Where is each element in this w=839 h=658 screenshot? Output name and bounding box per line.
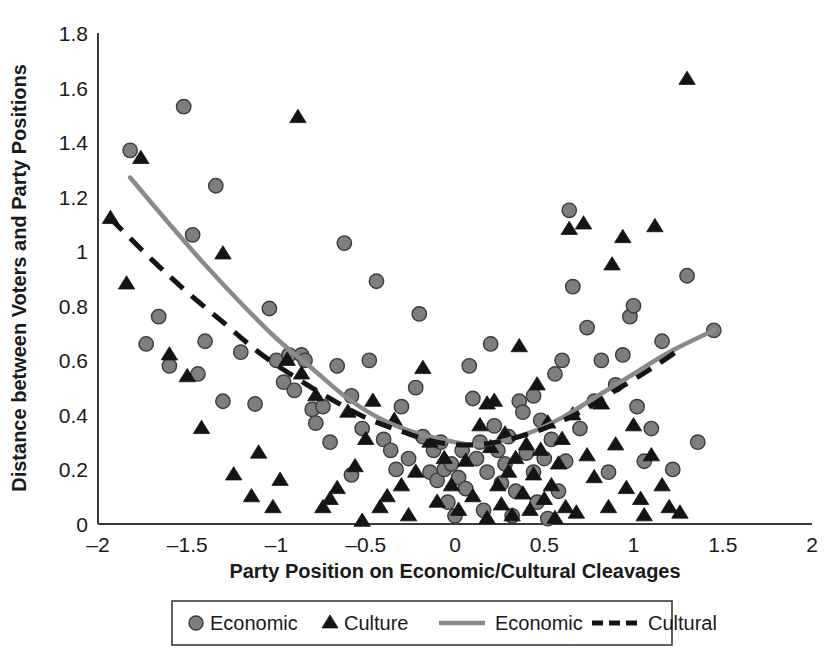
x-tick-label: 1.5 bbox=[708, 533, 737, 556]
data-point-culture bbox=[393, 478, 409, 491]
data-point-culture bbox=[472, 418, 488, 431]
data-point-culture bbox=[600, 499, 616, 512]
data-point-economic bbox=[580, 320, 594, 334]
x-tick-label: 2 bbox=[806, 533, 818, 556]
data-point-culture bbox=[265, 499, 281, 512]
data-point-culture bbox=[604, 257, 620, 270]
x-axis-title: Party Position on Economic/Cultural Clea… bbox=[229, 560, 680, 582]
data-point-culture bbox=[329, 480, 345, 493]
data-point-economic bbox=[526, 389, 540, 403]
series-economic-points bbox=[123, 99, 721, 525]
legend: EconomicCultureEconomicCultural bbox=[189, 612, 717, 634]
legend-marker-circle bbox=[189, 616, 203, 630]
data-point-economic bbox=[462, 359, 476, 373]
y-axis-title: Distance between Voters and Party Positi… bbox=[8, 64, 30, 492]
data-point-culture bbox=[618, 480, 634, 493]
y-axis-tick-labels: 00.20.40.60.811.21.41.61.8 bbox=[59, 22, 89, 536]
data-point-economic bbox=[562, 203, 576, 217]
data-point-economic bbox=[162, 359, 176, 373]
data-point-culture bbox=[215, 246, 231, 259]
x-tick-label: –1.5 bbox=[167, 533, 208, 556]
data-point-economic bbox=[151, 309, 165, 323]
data-point-culture bbox=[161, 347, 177, 360]
data-point-culture bbox=[250, 445, 266, 458]
y-tick-label: 1.2 bbox=[59, 186, 88, 209]
data-point-economic bbox=[389, 462, 403, 476]
data-point-economic bbox=[176, 99, 190, 113]
data-point-economic bbox=[555, 353, 569, 367]
data-point-economic bbox=[409, 380, 423, 394]
y-tick-label: 0.2 bbox=[59, 458, 88, 481]
x-tick-label: 0.5 bbox=[530, 533, 559, 556]
data-point-culture bbox=[379, 488, 395, 501]
data-point-economic bbox=[401, 451, 415, 465]
data-point-economic bbox=[362, 353, 376, 367]
data-point-economic bbox=[516, 405, 530, 419]
legend-label: Economic bbox=[210, 612, 298, 634]
data-point-economic bbox=[594, 353, 608, 367]
data-point-economic bbox=[616, 348, 630, 362]
data-point-culture bbox=[193, 420, 209, 433]
data-point-economic bbox=[484, 337, 498, 351]
data-point-culture bbox=[607, 437, 623, 450]
legend-label: Economic bbox=[495, 612, 583, 634]
y-tick-label: 1.4 bbox=[59, 131, 89, 154]
data-point-culture bbox=[632, 491, 648, 504]
data-point-economic bbox=[666, 462, 680, 476]
data-point-economic bbox=[337, 236, 351, 250]
data-point-economic bbox=[198, 334, 212, 348]
data-point-culture bbox=[661, 499, 677, 512]
y-tick-label: 1 bbox=[76, 240, 88, 263]
x-tick-label: –0.5 bbox=[345, 533, 386, 556]
x-tick-label: –2 bbox=[86, 533, 109, 556]
data-point-economic bbox=[487, 419, 501, 433]
data-point-culture bbox=[365, 393, 381, 406]
x-axis-tick-labels: –2–1.5–1–0.500.511.52 bbox=[86, 533, 818, 556]
data-point-economic bbox=[630, 400, 644, 414]
scatter-plot-svg: 00.20.40.60.811.21.41.61.8 –2–1.5–1–0.50… bbox=[0, 0, 839, 658]
chart-figure: 00.20.40.60.811.21.41.61.8 –2–1.5–1–0.50… bbox=[0, 0, 839, 658]
data-point-culture bbox=[400, 508, 416, 521]
data-point-culture bbox=[243, 488, 259, 501]
data-point-culture bbox=[615, 229, 631, 242]
data-point-economic bbox=[330, 359, 344, 373]
data-point-economic bbox=[601, 465, 615, 479]
y-tick-label: 0.4 bbox=[59, 404, 89, 427]
data-point-culture bbox=[529, 377, 545, 390]
x-tick-label: –1 bbox=[265, 533, 288, 556]
data-point-culture bbox=[118, 276, 134, 289]
data-point-economic bbox=[655, 334, 669, 348]
data-point-economic bbox=[384, 443, 398, 457]
legend-marker-triangle bbox=[322, 615, 338, 628]
data-point-economic bbox=[262, 301, 276, 315]
data-point-economic bbox=[209, 179, 223, 193]
data-point-economic bbox=[216, 394, 230, 408]
data-point-culture bbox=[347, 458, 363, 471]
x-tick-label: 0 bbox=[449, 533, 461, 556]
data-point-culture bbox=[561, 221, 577, 234]
data-point-economic bbox=[412, 307, 426, 321]
data-point-economic bbox=[680, 269, 694, 283]
data-point-economic bbox=[573, 421, 587, 435]
data-point-economic bbox=[394, 400, 408, 414]
x-tick-label: 1 bbox=[628, 533, 640, 556]
data-point-economic bbox=[309, 416, 323, 430]
data-point-culture bbox=[272, 472, 288, 485]
data-point-culture bbox=[636, 508, 652, 521]
data-point-economic bbox=[248, 397, 262, 411]
data-point-culture bbox=[654, 478, 670, 491]
data-point-culture bbox=[647, 218, 663, 231]
data-point-culture bbox=[415, 360, 431, 373]
data-point-economic bbox=[287, 383, 301, 397]
data-point-economic bbox=[480, 465, 494, 479]
data-point-economic bbox=[185, 228, 199, 242]
data-point-economic bbox=[466, 391, 480, 405]
data-point-culture bbox=[579, 448, 595, 461]
data-point-economic bbox=[644, 421, 658, 435]
data-point-economic bbox=[626, 299, 640, 313]
data-point-economic bbox=[691, 435, 705, 449]
data-point-culture bbox=[225, 467, 241, 480]
data-point-economic bbox=[123, 143, 137, 157]
data-point-culture bbox=[290, 109, 306, 122]
data-point-economic bbox=[566, 279, 580, 293]
